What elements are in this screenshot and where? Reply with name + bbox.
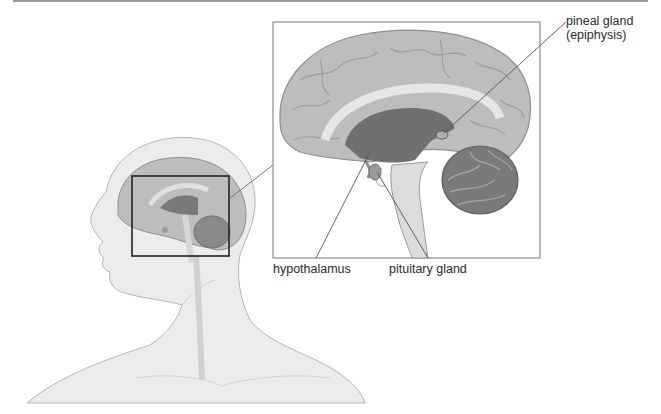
label-pineal-line1: pineal gland <box>566 14 633 28</box>
label-hypothalamus: hypothalamus <box>273 262 351 276</box>
pineal-gland-shape <box>436 131 448 139</box>
label-pituitary-gland: pituitary gland <box>389 262 467 276</box>
pituitary-gland-shape <box>369 164 381 180</box>
brain-diagram <box>0 0 661 414</box>
cerebellum-shape <box>442 146 518 214</box>
label-pineal-line2: (epiphysis) <box>566 28 633 42</box>
label-pineal-gland: pineal gland (epiphysis) <box>566 14 633 42</box>
